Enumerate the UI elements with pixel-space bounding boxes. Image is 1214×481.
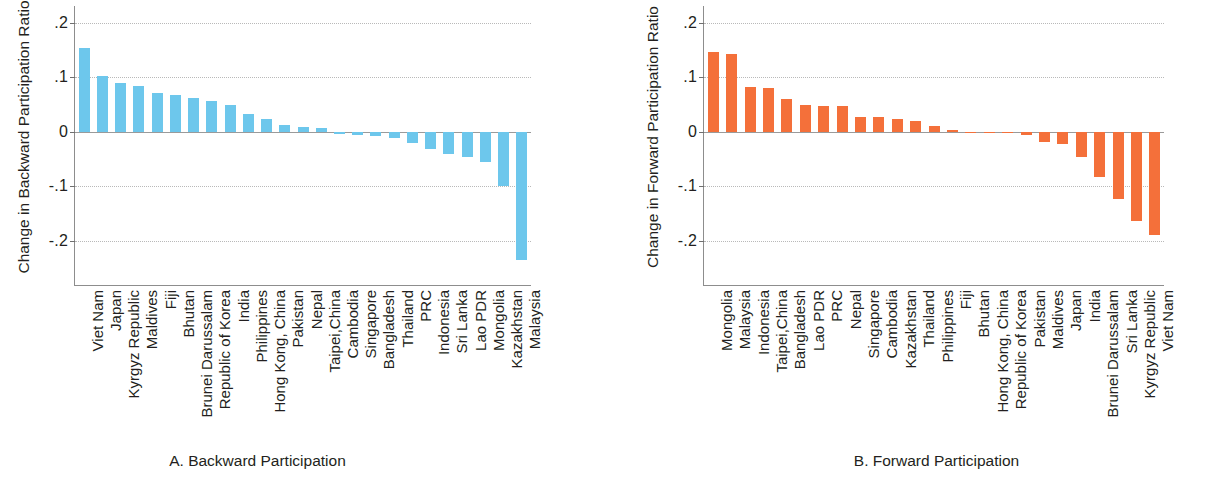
- bar: [1113, 132, 1124, 199]
- bar: [1076, 132, 1087, 158]
- y-tick-label: -.2: [49, 232, 68, 250]
- bar: [781, 99, 792, 132]
- x-tick-label: PRC: [829, 290, 844, 322]
- bar: [855, 117, 866, 132]
- bar: [389, 132, 400, 138]
- x-tick-label: Cambodia: [345, 290, 360, 358]
- bar: [929, 126, 940, 132]
- bar: [370, 132, 381, 136]
- bar: [79, 48, 90, 131]
- bar: [745, 87, 756, 132]
- panel-caption-backward: A. Backward Participation: [0, 452, 561, 470]
- panel-backward-participation: Change in Backward Participation Ratio .…: [0, 0, 607, 481]
- x-tick-label: Maldives: [1050, 290, 1065, 349]
- x-tick-label: Nepal: [848, 290, 863, 329]
- y-tick-label: -.1: [49, 177, 68, 195]
- bar: [133, 86, 144, 132]
- x-axis-line-forward: [703, 285, 1164, 286]
- x-tick-label: Lao PDR: [473, 290, 488, 351]
- bar: [407, 132, 418, 143]
- bar-series-backward: [75, 12, 531, 268]
- x-tick-label: Lao PDR: [811, 290, 826, 351]
- x-tick-label: Kyrgyz Republic: [1142, 290, 1157, 398]
- x-tick-label: Maldives: [144, 290, 159, 349]
- y-tick-label: -.2: [678, 232, 697, 250]
- bar: [1002, 132, 1013, 134]
- y-axis-title-backward: Change in Backward Participation Ratio: [14, 6, 34, 268]
- x-tick-label: Viet Nam: [90, 290, 105, 351]
- x-tick-label: Indonesia: [436, 290, 451, 355]
- panel-forward-participation: Change in Forward Participation Ratio .2…: [607, 0, 1214, 481]
- x-tick-label: Hong Kong, China: [995, 290, 1010, 413]
- x-tick-label: India: [1087, 290, 1102, 323]
- y-tick-label: .2: [54, 14, 68, 32]
- bar: [965, 132, 976, 133]
- bar: [97, 76, 108, 132]
- bar: [261, 119, 272, 132]
- x-tick-label: Cambodia: [884, 290, 899, 358]
- bar: [1094, 132, 1105, 177]
- bar: [873, 117, 884, 132]
- y-axis-title-forward: Change in Forward Participation Ratio: [643, 6, 663, 268]
- x-tick-label: Viet Nam: [1160, 290, 1175, 351]
- bar: [352, 132, 363, 135]
- x-tick-label: Republic of Korea: [217, 290, 232, 409]
- bar: [115, 83, 126, 131]
- x-tick-label: Bangladesh: [381, 290, 396, 369]
- bar: [225, 105, 236, 132]
- y-tick-label: .1: [54, 68, 68, 86]
- bar: [243, 114, 254, 131]
- x-axis-labels-forward: MongoliaMalaysiaIndonesiaTaipei,ChinaBan…: [704, 290, 1164, 460]
- x-tick-label: Mongolia: [719, 290, 734, 351]
- bar: [425, 132, 436, 149]
- x-tick-label: Japan: [1068, 290, 1083, 331]
- x-tick-label: Pakistan: [1032, 290, 1047, 348]
- x-tick-label: Mongolia: [491, 290, 506, 351]
- x-tick-label: Bhutan: [976, 290, 991, 338]
- y-tick-label: .2: [683, 14, 697, 32]
- bar: [763, 88, 774, 132]
- bar: [443, 132, 454, 154]
- bar: [1149, 132, 1160, 235]
- bar: [462, 132, 473, 157]
- x-tick-label: Sri Lanka: [1124, 290, 1139, 353]
- bar: [498, 132, 509, 186]
- x-tick-label: Republic of Korea: [1013, 290, 1028, 409]
- bar: [892, 119, 903, 132]
- x-tick-label: Philippines: [940, 290, 955, 363]
- bar: [800, 105, 811, 132]
- bar: [726, 54, 737, 131]
- plot-area-backward: .2.10-.1-.2 Viet NamJapanKyrgyz Republic…: [75, 12, 531, 268]
- bar: [1057, 132, 1068, 144]
- bar: [1131, 132, 1142, 221]
- x-tick-label: PRC: [418, 290, 433, 322]
- y-tick-label: .1: [683, 68, 697, 86]
- bar: [818, 106, 829, 132]
- x-tick-label: Nepal: [309, 290, 324, 329]
- x-tick-label: Brunei Darussalam: [199, 290, 214, 418]
- bar: [298, 127, 309, 131]
- x-axis-labels-backward: Viet NamJapanKyrgyz RepublicMaldivesFiji…: [75, 290, 531, 460]
- x-tick-label: Pakistan: [290, 290, 305, 348]
- bar: [837, 106, 848, 132]
- bar: [188, 98, 199, 132]
- x-tick-label: Kyrgyz Republic: [126, 290, 141, 398]
- bar: [206, 101, 217, 132]
- x-tick-label: Kazakhstan: [903, 290, 918, 368]
- x-tick-label: Singapore: [866, 290, 881, 358]
- x-tick-label: Bangladesh: [792, 290, 807, 369]
- y-tick-label: 0: [688, 123, 697, 141]
- x-tick-label: Japan: [108, 290, 123, 331]
- x-axis-line-backward: [74, 285, 531, 286]
- bar: [984, 132, 995, 134]
- y-tick-label: 0: [59, 123, 68, 141]
- x-tick-label: Taipei,China: [774, 290, 789, 373]
- bar: [152, 93, 163, 132]
- x-tick-label: Philippines: [254, 290, 269, 363]
- bar: [170, 95, 181, 131]
- x-tick-label: Singapore: [363, 290, 378, 358]
- bar: [947, 130, 958, 132]
- bar: [279, 125, 290, 132]
- bar: [1039, 132, 1050, 142]
- y-tick-label: -.1: [678, 177, 697, 195]
